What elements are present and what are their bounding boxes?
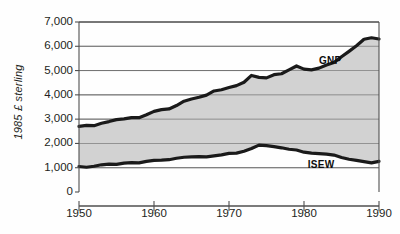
x-tick-label: 1980 — [281, 208, 327, 220]
series-annotation-gnp: GNP — [319, 55, 342, 66]
series-annotation-isew: ISEW — [308, 159, 335, 170]
x-tick-label: 1970 — [206, 208, 252, 220]
x-tick-label: 1950 — [56, 208, 102, 220]
isew-gnp-area-chart: 1985 £ sterling 01,0002,0003,0004,0005,0… — [0, 0, 400, 234]
x-tick-label: 1960 — [131, 208, 177, 220]
x-axis-tick-labels: 19501960197019801990 — [0, 0, 400, 234]
x-tick-label: 1990 — [356, 208, 400, 220]
